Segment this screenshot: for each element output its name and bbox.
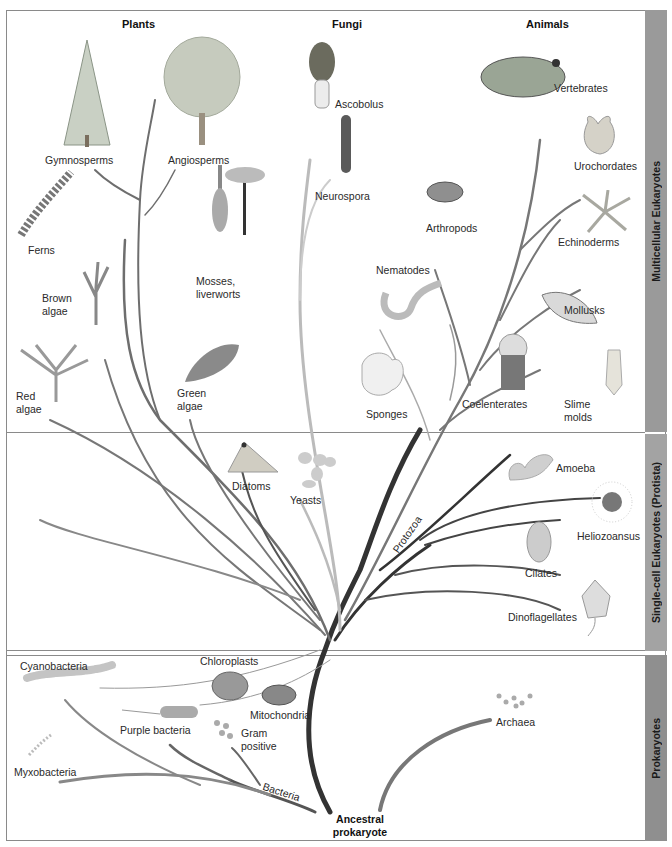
label-line: algae — [16, 403, 42, 416]
label-yeasts: Yeasts — [290, 494, 321, 507]
neurospora-icon — [338, 115, 354, 175]
label-line: Gram — [241, 727, 277, 740]
label-nematodes: Nematodes — [376, 264, 430, 277]
label-line: positive — [241, 740, 277, 753]
label-ancestral-prokaryote: Ancestralprokaryote — [322, 813, 398, 839]
amoeba-icon — [505, 450, 555, 485]
label-mitochondria: Mitochondria — [250, 709, 310, 722]
label-diatoms: Diatoms — [232, 480, 271, 493]
label-line: algae — [42, 305, 72, 318]
label-slime-molds: Slimemolds — [564, 398, 592, 424]
moss-liverwort-icon — [185, 165, 265, 240]
label-vertebrates: Vertebrates — [554, 82, 608, 95]
gram-positive-cocci-icon — [212, 718, 236, 743]
label-line: Mosses, — [196, 275, 240, 288]
label-line: Green — [177, 387, 206, 400]
starfish-icon — [578, 190, 633, 235]
label-archaea: Archaea — [496, 716, 535, 729]
slime-mold-icon — [600, 345, 628, 400]
archaea-cells-icon — [494, 690, 539, 712]
label-cyanobacteria: Cyanobacteria — [20, 660, 88, 673]
label-echinoderms: Echinoderms — [558, 236, 619, 249]
label-mollusks: Mollusks — [564, 304, 605, 317]
label-line: Ancestral — [322, 813, 398, 826]
brown-algae-icon — [76, 257, 116, 327]
label-urochordates: Urochordates — [574, 160, 637, 173]
label-green-algae: Greenalgae — [177, 387, 206, 413]
yeast-cells-icon — [295, 450, 340, 490]
label-line: liverworts — [196, 288, 240, 301]
label-cilates: Cilates — [525, 567, 557, 580]
label-ferns: Ferns — [28, 244, 55, 257]
header-plants: Plants — [122, 18, 155, 30]
conifer-tree-icon — [62, 40, 112, 150]
ciliate-icon — [524, 520, 554, 565]
myxobacteria-icon — [26, 730, 61, 760]
label-mosses: Mosses,liverworts — [196, 275, 240, 301]
label-arthropods: Arthropods — [426, 222, 477, 235]
morel-mushroom-icon — [305, 42, 339, 112]
label-sponges: Sponges — [366, 408, 407, 421]
frog-icon — [478, 45, 573, 105]
dinoflagellate-icon — [578, 578, 613, 638]
label-neurospora: Neurospora — [315, 190, 370, 203]
nematode-icon — [376, 278, 446, 338]
heliozoan-icon — [590, 480, 635, 525]
label-coelenterates: Coelenterates — [462, 398, 527, 411]
urochordate-icon — [580, 112, 620, 157]
chloroplast-icon — [210, 670, 250, 702]
sea-anemone-icon — [483, 333, 543, 393]
header-fungi: Fungi — [332, 18, 362, 30]
sponge-icon — [352, 345, 412, 405]
purple-bacterium-icon — [120, 700, 200, 725]
fern-icon — [16, 170, 76, 240]
diatom-icon — [226, 440, 281, 475]
arthropod-icon — [425, 178, 465, 213]
label-gram-positive: Grampositive — [241, 727, 277, 753]
label-purple-bacteria: Purple bacteria — [120, 724, 191, 737]
label-brown-algae: Brownalgae — [42, 292, 72, 318]
label-red-algae: Redalgae — [16, 390, 42, 416]
deciduous-tree-icon — [162, 35, 242, 150]
label-line: Brown — [42, 292, 72, 305]
label-angiosperms: Angiosperms — [168, 154, 229, 167]
label-amoeba: Amoeba — [556, 462, 595, 475]
label-ascobolus: Ascobolus — [335, 98, 383, 111]
mitochondrion-icon — [260, 682, 298, 708]
label-heliozoansus: Heliozoansus — [577, 530, 640, 543]
label-line: Slime — [564, 398, 592, 411]
label-line: prokaryote — [322, 826, 398, 839]
header-animals: Animals — [526, 18, 569, 30]
green-algae-leaf-icon — [182, 340, 242, 385]
label-gymnosperms: Gymnosperms — [45, 154, 113, 167]
label-dinoflagellates: Dinoflagellates — [508, 611, 577, 624]
label-myxobacteria: Myxobacteria — [14, 766, 76, 779]
label-line: molds — [564, 411, 592, 424]
label-line: algae — [177, 400, 206, 413]
label-line: Red — [16, 390, 42, 403]
label-chloroplasts: Chloroplasts — [200, 655, 258, 668]
